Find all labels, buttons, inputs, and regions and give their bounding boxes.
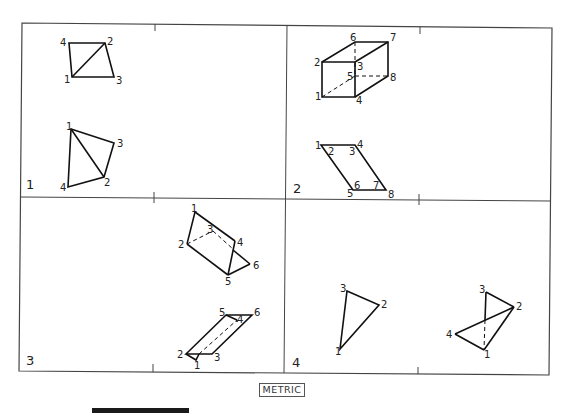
- vertex-labels: 4213132467235814123467581324655642313213…: [60, 32, 522, 371]
- vertex-label: 2: [178, 239, 184, 250]
- vertex-label: 5: [225, 276, 231, 287]
- vertex-label: 6: [254, 307, 260, 318]
- vertex-label: 1: [191, 203, 197, 214]
- vertex-label: 2: [107, 36, 113, 47]
- vertex-label: 6: [354, 180, 360, 191]
- vertex-label: 1: [66, 121, 72, 132]
- vertex-label: 4: [356, 95, 362, 106]
- vertex-label: 1: [315, 140, 321, 151]
- quadrant-1: [68, 43, 114, 187]
- vertex-label: 4: [237, 314, 243, 325]
- vertex-label: 5: [219, 307, 225, 318]
- metric-caption: METRIC: [259, 383, 305, 397]
- vertex-label: 4: [237, 237, 243, 248]
- quadrant-3: [186, 212, 252, 360]
- vertex-label: 6: [253, 260, 259, 271]
- vertex-label: 8: [390, 72, 396, 83]
- vertex-label: 2: [177, 349, 183, 360]
- vertex-label: 3: [117, 138, 123, 149]
- vertex-label: 1: [335, 346, 341, 357]
- figure-4a-triangle: [340, 291, 379, 349]
- vertex-label: 1: [64, 74, 70, 85]
- vertex-label: 2: [516, 301, 522, 312]
- figure-1a-quadrilateral: [69, 43, 114, 77]
- vertex-label: 4: [60, 37, 66, 48]
- vertex-label: 2: [381, 299, 387, 310]
- vertex-label: 3: [207, 224, 213, 235]
- vertex-label: 8: [388, 189, 394, 200]
- figure-4b-tetrahedron: [455, 292, 514, 350]
- vertex-label: 2: [328, 146, 334, 157]
- quadrant-4: [340, 291, 514, 350]
- quadrant-number-4: 4: [292, 355, 300, 370]
- vertex-label: 2: [314, 57, 320, 68]
- vertex-label: 5: [347, 71, 353, 82]
- drawing-sheet: 4213132467235814123467581324655642313213…: [0, 0, 570, 413]
- quadrant-2: [321, 42, 388, 190]
- vertex-label: 3: [116, 75, 122, 86]
- vertex-label: 3: [349, 146, 355, 157]
- figure-2a-box: [322, 42, 388, 97]
- vertex-label: 7: [373, 180, 379, 191]
- vertex-label: 3: [340, 283, 346, 294]
- vertex-label: 3: [479, 284, 485, 295]
- vertex-label: 2: [104, 177, 110, 188]
- vertex-label: 1: [315, 91, 321, 102]
- quadrant-number-2: 2: [293, 181, 301, 196]
- quadrant-number-3: 3: [26, 353, 34, 368]
- vertex-label: 6: [350, 32, 356, 43]
- vertex-label: 7: [390, 32, 396, 43]
- vertex-label: 5: [347, 188, 353, 199]
- quadrant-number-1: 1: [26, 177, 34, 192]
- vertex-label: 3: [214, 352, 220, 363]
- vertex-label: 4: [357, 139, 363, 150]
- vertex-label: 1: [194, 360, 200, 371]
- vertex-label: 4: [60, 182, 66, 193]
- vertex-label: 3: [357, 61, 363, 72]
- vertex-label: 4: [446, 329, 452, 340]
- black-bar: [92, 408, 189, 413]
- vertex-label: 1: [484, 349, 490, 360]
